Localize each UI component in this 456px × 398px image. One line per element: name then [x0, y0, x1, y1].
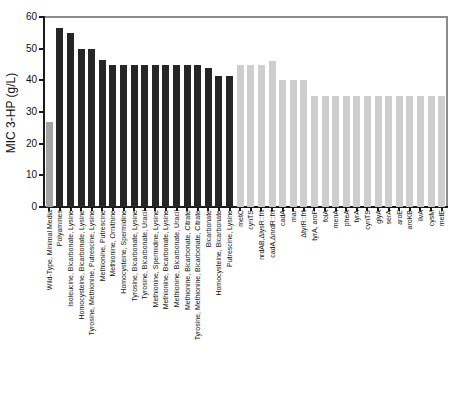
x-category-label: ΔtyrR::frt [298, 210, 309, 396]
x-category-label: glyA [373, 210, 384, 396]
x-category-label: Methionine, Bicarbonate, Uracil [171, 210, 182, 396]
x-category-label: Tyrosine, Methionine, Bicarbonate, Citra… [192, 210, 203, 396]
bar [88, 49, 95, 207]
mic-3hp-bar-chart: MIC 3-HP (g/L) 0102030405060Wild-Type, M… [0, 0, 456, 398]
x-category-label: tyrA [351, 210, 362, 396]
bar [269, 61, 276, 207]
bar [428, 96, 435, 207]
y-tick-label: 10 [15, 170, 37, 180]
bar [332, 96, 339, 207]
bar [215, 76, 222, 207]
x-category-label: cynTS [245, 210, 256, 396]
bar [56, 28, 63, 207]
y-tick [39, 48, 44, 50]
x-category-label: cynTS [362, 210, 373, 396]
x-category-label: cadA [277, 210, 288, 396]
x-category-label: Tyrosine, Bicarbonate, Uracil [139, 210, 150, 396]
bar [438, 96, 445, 207]
x-category-label: menA [330, 210, 341, 396]
x-category-label: folA [320, 210, 331, 396]
y-tick [39, 174, 44, 176]
y-tick-label: 60 [15, 12, 37, 22]
bar [417, 96, 424, 207]
x-category-label: Polyamines [54, 210, 65, 396]
bar [353, 96, 360, 207]
x-category-label: nrdAB,ΔlysR::frt [256, 210, 267, 396]
bar [67, 33, 74, 207]
bar [279, 80, 286, 207]
x-category-label: Putrescine, Lysine [224, 210, 235, 396]
x-category-label: metE [436, 210, 447, 396]
bar [173, 65, 180, 208]
x-category-label: Isoleucine, Bicarbonate, Lysine [65, 210, 76, 396]
x-category-label: cysM [426, 210, 437, 396]
x-category-label: Tyrosine, Methionine, Putrescine, Lysine [86, 210, 97, 396]
y-tick-label: 30 [15, 107, 37, 117]
y-tick [39, 206, 44, 208]
y-tick [39, 111, 44, 113]
y-tick-label: 50 [15, 44, 37, 54]
y-tick [39, 79, 44, 81]
plot-box-top-line [44, 16, 448, 18]
bar [290, 80, 297, 207]
bar [343, 96, 350, 207]
x-category-label: Homocysteine, Bicarbonate [213, 210, 224, 396]
y-tick-label: 20 [15, 139, 37, 149]
bar [99, 60, 106, 207]
bar [247, 65, 254, 208]
bar [194, 65, 201, 208]
bar [300, 80, 307, 207]
bar [205, 68, 212, 207]
bar [385, 96, 392, 207]
bar [46, 122, 53, 208]
bar [396, 96, 403, 207]
bar [258, 65, 265, 208]
bar [364, 96, 371, 207]
bar [78, 49, 85, 207]
x-category-label: Methionine, Bicarbonate, Citrate [182, 210, 193, 396]
x-category-label: tyrA, aroF [309, 210, 320, 396]
x-category-label: ilvA [415, 210, 426, 396]
y-tick-label: 0 [15, 202, 37, 212]
x-category-label: Homocysteine, Bicarbonate, Lysine [76, 210, 87, 396]
bar [141, 65, 148, 208]
x-category-label: serA [383, 210, 394, 396]
bar [131, 65, 138, 208]
bar [109, 65, 116, 208]
y-tick-label: 40 [15, 75, 37, 85]
bar [375, 96, 382, 207]
x-category-label: Tyrosine, Bicarbonate, Lysine [129, 210, 140, 396]
plot-box-right-line [446, 16, 448, 208]
y-tick [39, 143, 44, 145]
bar [406, 96, 413, 207]
bar [152, 65, 159, 208]
x-category-label: Homocysteine, Spermidine [118, 210, 129, 396]
x-category-label: Methionine, Ornithine [107, 210, 118, 396]
bar [237, 65, 244, 208]
y-tick [39, 16, 44, 18]
x-category-label: cadA,ΔnrdR::frt [267, 210, 278, 396]
bar [226, 76, 233, 207]
bar [311, 96, 318, 207]
bar [322, 96, 329, 207]
x-category-label: aroKB [404, 210, 415, 396]
bar [120, 65, 127, 208]
bar [162, 65, 169, 208]
bar [184, 65, 191, 208]
x-category-label: Methionine, Bicarbonate, Lysine [160, 210, 171, 396]
